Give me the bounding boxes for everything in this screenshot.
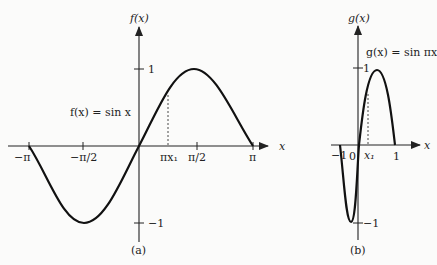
caption-a: (a): [131, 244, 146, 257]
function-label-b: g(x) = sin πx: [366, 46, 437, 59]
tick-label-neg-pi-half: −π/2: [70, 151, 97, 164]
x-axis-label-a: x: [279, 140, 286, 153]
tick-label-pi-x1: πx₁: [160, 151, 178, 164]
tick-label-neg-one-b: −1: [331, 149, 347, 162]
caption-b: (b): [350, 244, 366, 257]
tick-label-neg-pi: −π: [14, 151, 30, 164]
y-axis-label-a: f(x): [129, 12, 149, 25]
x-axis-label-b: x: [424, 139, 431, 152]
tick-label-one-b-x: 1: [393, 150, 400, 163]
panel-b: g(x) x g(x) = sin πx −1 0 x₁ 1 1 −1 (b): [331, 12, 437, 257]
tick-label-pi-half: π/2: [188, 151, 206, 164]
tick-label-one-b: 1: [363, 62, 370, 75]
tick-label-neg-one-b-y: −1: [363, 217, 379, 230]
figure: f(x) x f(x) = sin x −π −π/2 πx₁ π/2 π 1 …: [0, 0, 437, 265]
function-label-a: f(x) = sin x: [70, 106, 132, 119]
panel-a: f(x) x f(x) = sin x −π −π/2 πx₁ π/2 π 1 …: [8, 12, 286, 257]
y-axis-label-b: g(x): [348, 12, 370, 25]
tick-label-zero-b: 0: [349, 150, 356, 163]
tick-label-neg-one-a: −1: [148, 217, 164, 230]
tick-label-x1-b: x₁: [364, 149, 375, 162]
tick-label-one-a: 1: [148, 63, 155, 76]
tick-label-pi: π: [249, 151, 256, 164]
sine-curve-b: [340, 70, 395, 222]
